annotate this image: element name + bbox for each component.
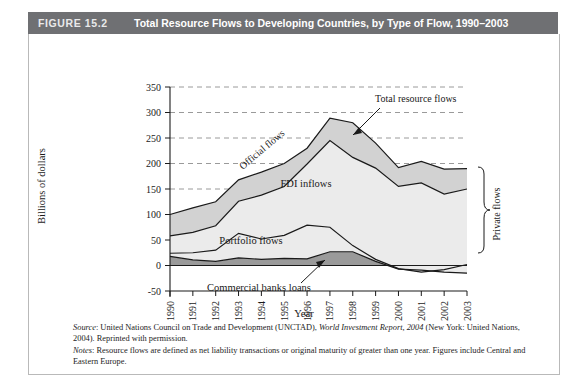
annotation-private-flows: Private flows	[491, 187, 502, 240]
x-tick-label-1999: 1999	[370, 301, 381, 321]
x-tick-label-1990: 1990	[165, 301, 176, 321]
x-tick-label-2003: 2003	[462, 301, 473, 321]
caption-source-line: Source: United Nations Council on Trade …	[73, 322, 528, 345]
x-tick-label-1992: 1992	[210, 301, 221, 321]
x-tick-label-2000: 2000	[393, 301, 404, 321]
figure-title: Total Resource Flows to Developing Count…	[134, 17, 508, 29]
chart-x-axis-ticks: 1990199119921993199419951996199719981999…	[165, 291, 473, 321]
x-tick-label-1998: 1998	[347, 301, 358, 321]
x-tick-label-1997: 1997	[324, 301, 335, 321]
y-tick-label-250: 250	[146, 133, 161, 144]
x-tick-label-1994: 1994	[256, 301, 267, 321]
annotation-portfolio-flows: Portfolio flows	[219, 235, 282, 246]
caption-source-italic: World Investment Report, 2004	[319, 323, 423, 332]
x-tick-label-1995: 1995	[279, 301, 290, 321]
figure-caption: Source: United Nations Council on Trade …	[73, 322, 528, 368]
chart-plot-area: -50050100150200250300350 199019911992199…	[29, 34, 559, 322]
chart-y-axis-ticks: -50050100150200250300350	[146, 82, 170, 297]
figure-number: FIGURE 15.2	[38, 17, 134, 29]
caption-notes-line: Notes: Resource flows are defined as net…	[73, 345, 528, 368]
x-tick-label-2001: 2001	[416, 301, 427, 321]
caption-notes-label: Notes	[73, 346, 92, 355]
annotation-total-resource-flows: Total resource flows	[375, 93, 457, 104]
y-tick-label-200: 200	[146, 158, 161, 169]
y-tick-label--50: -50	[148, 286, 161, 297]
y-axis-label: Billions of dollars	[36, 148, 47, 224]
figure-title-bar: FIGURE 15.2 Total Resource Flows to Deve…	[28, 12, 558, 34]
y-tick-label-50: 50	[151, 235, 161, 246]
annotation-commercial-banks-loans: Commercial banks loans	[207, 282, 311, 293]
annotation-fdi-inflows: FDI inflows	[280, 178, 331, 189]
caption-source-text-a: : United Nations Council on Trade and De…	[96, 323, 319, 332]
caption-notes-text: : Resource flows are defined as net liab…	[73, 346, 525, 366]
x-axis-label: Year	[294, 308, 314, 319]
x-tick-label-1993: 1993	[233, 301, 244, 321]
stacked-area-chart: -50050100150200250300350 199019911992199…	[29, 34, 559, 322]
y-tick-label-350: 350	[146, 82, 161, 93]
x-tick-label-2002: 2002	[439, 301, 450, 321]
figure-container: FIGURE 15.2 Total Resource Flows to Deve…	[0, 0, 586, 386]
x-tick-label-1991: 1991	[187, 301, 198, 321]
y-tick-label-150: 150	[146, 184, 161, 195]
caption-source-label: Source	[73, 323, 96, 332]
private-flows-brace	[478, 167, 490, 253]
y-tick-label-100: 100	[146, 209, 161, 220]
figure-panel: -50050100150200250300350 199019911992199…	[28, 34, 560, 375]
y-tick-label-300: 300	[146, 107, 161, 118]
y-tick-label-0: 0	[156, 260, 161, 271]
